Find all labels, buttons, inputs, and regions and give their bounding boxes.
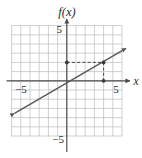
x-tick-label-5: 5 <box>113 83 119 95</box>
x-axis-label: x <box>132 75 139 87</box>
y-tick-label-5: 5 <box>57 23 63 35</box>
y-axis-label: f(x) <box>58 5 75 19</box>
x-tick-label-negative-5: −5 <box>15 83 27 95</box>
value-marker-dot-on-x-axis <box>102 79 106 83</box>
y-tick-label-negative-5: −5 <box>52 133 64 145</box>
graph-figure: f(x) x 5 −5 −5 5 <box>0 0 142 158</box>
value-marker-dot-on-y-axis <box>65 61 69 65</box>
coordinate-plane-svg: f(x) x 5 −5 −5 5 <box>0 0 142 158</box>
curve-intersection-point <box>102 61 106 65</box>
